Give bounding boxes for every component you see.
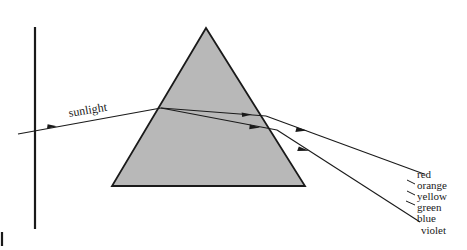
dispersion-diagram: sunlight red orange yellow green blue vi…	[0, 0, 467, 250]
leader-tick-green	[406, 201, 415, 205]
spectrum-label-violet: violet	[421, 225, 446, 236]
triangular-prism	[112, 28, 305, 186]
leader-tick-yellow	[407, 191, 415, 195]
exit-ray-red-arrowhead	[295, 127, 307, 132]
spectrum-label-blue: blue	[417, 213, 436, 224]
leader-tick-orange	[407, 180, 415, 184]
diagram-canvas	[0, 0, 467, 250]
